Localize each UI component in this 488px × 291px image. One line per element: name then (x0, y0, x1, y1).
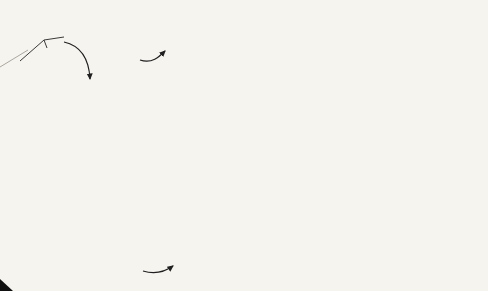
tide-chart-svg (0, 0, 488, 291)
page-corner-artifact (0, 279, 13, 291)
arrow-to-first-tides (64, 42, 90, 79)
arrow-spring-tides-bottom (143, 266, 173, 273)
day-one-bracket (20, 37, 64, 61)
day-one-bracket-tick (44, 40, 47, 48)
arrow-spring-tides-top (140, 51, 165, 61)
annotation-strokes (0, 37, 173, 291)
tide-heights-figure (0, 0, 488, 291)
scan-line-artifact (0, 50, 28, 67)
